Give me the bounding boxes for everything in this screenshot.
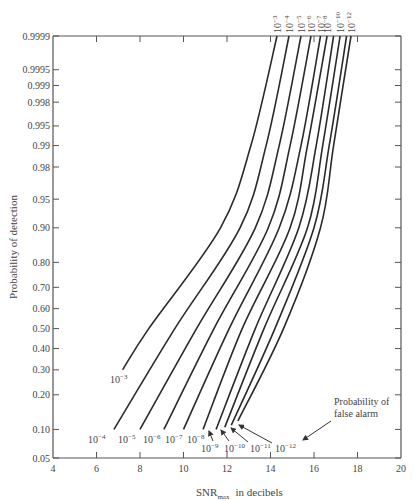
curves bbox=[114, 36, 351, 429]
y-tick-label: 0.995 bbox=[28, 120, 51, 131]
detection-probability-chart: 0.050.100.200.300.400.500.600.700.800.90… bbox=[0, 0, 414, 501]
top-curve-label: 10−8 bbox=[321, 15, 333, 33]
x-axis-label: SNRmaxin decibels bbox=[196, 486, 283, 501]
label-pointer-arrow bbox=[221, 430, 229, 441]
x-tick-label: 12 bbox=[222, 463, 232, 474]
bottom-curve-label: 10−6 bbox=[143, 433, 161, 445]
y-tick-label: 0.90 bbox=[33, 222, 51, 233]
bottom-curve-label: 10−7 bbox=[165, 433, 183, 445]
y-tick-label: 0.98 bbox=[33, 162, 51, 173]
bottom-curve-label: 10−10 bbox=[224, 442, 245, 454]
y-tick-label: 0.998 bbox=[28, 97, 51, 108]
bottom-curve-label: 10−9 bbox=[201, 442, 219, 454]
bottom-curve-label: 10−11 bbox=[250, 442, 271, 454]
label-pointer-arrow bbox=[239, 425, 272, 443]
bottom-curve-label: 10−12 bbox=[275, 442, 296, 454]
x-tick-label: 16 bbox=[309, 463, 319, 474]
bottom-curve-label: 10−5 bbox=[118, 433, 136, 445]
bottom-curve-label: 10−4 bbox=[88, 433, 106, 445]
top-curve-label: 10−3 bbox=[271, 15, 283, 33]
top-curve-label: 10−4 bbox=[283, 15, 295, 33]
y-axis-label: Probability of detection bbox=[7, 195, 19, 299]
curve-10-3 bbox=[123, 36, 277, 370]
annotation-text: false alarm bbox=[334, 408, 378, 419]
bottom-curve-label: 10−3 bbox=[110, 373, 128, 385]
y-tick-label: 0.60 bbox=[33, 303, 51, 314]
y-tick-label: 0.10 bbox=[33, 424, 51, 435]
curve-10-8 bbox=[203, 36, 327, 429]
annotation-arrow bbox=[303, 421, 331, 440]
y-tick-label: 0.999 bbox=[28, 80, 51, 91]
curve-labels: 10−310−410−510−610−710−810−1010−1210−310… bbox=[88, 12, 357, 454]
y-tick-label: 0.9995 bbox=[23, 64, 51, 75]
annotation-text: Probability of bbox=[334, 396, 390, 407]
x-tick-label: 4 bbox=[51, 463, 56, 474]
x-tick-label: 8 bbox=[138, 463, 143, 474]
y-tick-label: 0.95 bbox=[33, 194, 51, 205]
label-pointer-arrow bbox=[209, 431, 213, 441]
x-tick-label: 10 bbox=[179, 463, 189, 474]
y-tick-label: 0.05 bbox=[33, 453, 51, 464]
y-tick-label: 0.70 bbox=[33, 282, 51, 293]
curve-10-4 bbox=[114, 36, 289, 429]
curve-10-10 bbox=[225, 36, 340, 427]
x-tick-label: 20 bbox=[396, 463, 406, 474]
x-tick-label: 6 bbox=[94, 463, 99, 474]
false-alarm-annotation: Probability offalse alarm bbox=[209, 396, 390, 443]
label-pointer-arrow bbox=[231, 428, 248, 442]
y-tick-label: 0.50 bbox=[33, 323, 51, 334]
x-tick-label: 14 bbox=[266, 463, 276, 474]
y-tick-label: 0.99 bbox=[33, 140, 51, 151]
x-tick-label: 18 bbox=[353, 463, 363, 474]
chart-svg: 0.050.100.200.300.400.500.600.700.800.90… bbox=[0, 0, 414, 501]
y-tick-label: 0.9999 bbox=[23, 31, 51, 42]
top-curve-label: 10−12 bbox=[345, 12, 357, 33]
y-tick-label: 0.40 bbox=[33, 343, 51, 354]
y-tick-label: 0.20 bbox=[33, 389, 51, 400]
y-tick-label: 0.80 bbox=[33, 257, 51, 268]
y-tick-label: 0.30 bbox=[33, 364, 51, 375]
